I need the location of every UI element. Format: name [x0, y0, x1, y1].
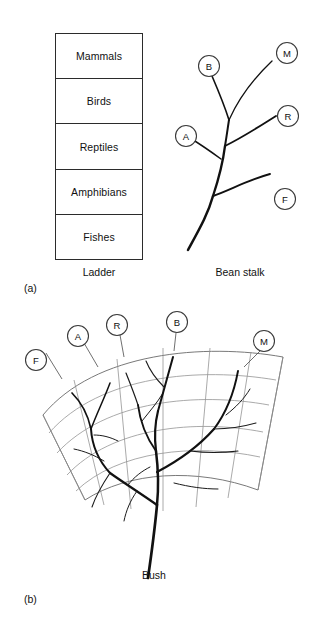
bush-branch-r-main — [138, 405, 156, 451]
ladder-caption: Ladder — [55, 266, 143, 278]
node-label: A — [75, 331, 82, 342]
bush-tip-r: R — [107, 315, 128, 336]
bush-twig-right-3 — [174, 483, 218, 489]
bush-twig-interior-3 — [94, 435, 118, 441]
bush-radial-1 — [43, 415, 85, 500]
node-label: M — [283, 48, 291, 59]
bush-branch-left-main — [110, 473, 157, 505]
node-label: F — [282, 194, 288, 205]
bush-trunk-mid — [156, 451, 158, 505]
ladder-rung-fishes: Fishes — [56, 215, 142, 259]
node-label: M — [260, 336, 268, 347]
bush-lead-r — [120, 335, 124, 357]
bean-stalk-caption: Bean stalk — [175, 266, 305, 278]
bush-twig-b-left — [146, 361, 164, 387]
bean-stalk-tip-b: B — [199, 56, 220, 77]
panel-a: Mammals Birds Reptiles Amphibians Fishes… — [0, 0, 313, 300]
bush-radial-7 — [258, 357, 283, 490]
panel-a-letter: (a) — [24, 282, 37, 294]
evolution-metaphors-figure: Mammals Birds Reptiles Amphibians Fishes… — [0, 0, 313, 624]
node-label: R — [285, 111, 292, 122]
bush-twig-left-down — [92, 473, 110, 507]
bush-tip-b: B — [167, 312, 188, 333]
bean-stalk-branch-b — [212, 76, 229, 120]
bush-twig-interior-2 — [128, 467, 150, 485]
bush-tip-a: A — [68, 326, 89, 347]
bush-branch-a-stem — [91, 383, 110, 429]
bean-stalk-tip-f: F — [275, 189, 296, 210]
bean-stalk-tip-a: A — [176, 126, 197, 147]
ladder-rung-label: Amphibians — [71, 186, 127, 198]
node-label: A — [183, 131, 190, 142]
bush-lead-a — [84, 343, 98, 367]
bush-tip-f: F — [26, 350, 47, 371]
node-label: B — [206, 61, 212, 72]
bean-stalk-trunk-lower — [188, 196, 213, 250]
bean-stalk-branch-r — [225, 116, 276, 146]
ladder-rung-label: Mammals — [76, 50, 122, 62]
ladder-rung-birds: Birds — [56, 79, 142, 124]
bean-stalk-branch-f — [213, 174, 270, 196]
bush-lead-f — [46, 353, 62, 379]
ladder-rung-label: Fishes — [83, 231, 115, 243]
bean-stalk-trunk-mid — [213, 146, 225, 196]
ladder-rung-reptiles: Reptiles — [56, 124, 142, 169]
bush-lead-m — [244, 351, 260, 367]
node-label: R — [114, 320, 121, 331]
ladder-rung-mammals: Mammals — [56, 34, 142, 79]
bush-tip-m: M — [254, 331, 275, 352]
bean-stalk-tip-m: M — [277, 43, 298, 64]
node-label: B — [174, 317, 180, 328]
bush-branch-r-stem — [126, 373, 138, 405]
node-label: F — [33, 355, 39, 366]
bean-stalk-diagram: M B R A F — [160, 28, 313, 278]
bush-diagram: F A R B M — [0, 295, 313, 585]
ladder-rung-amphibians: Amphibians — [56, 170, 142, 215]
bean-stalk-trunk-upper — [225, 120, 229, 146]
ladder-diagram: Mammals Birds Reptiles Amphibians Fishes — [55, 33, 143, 260]
bean-stalk-branch-m — [229, 61, 272, 120]
bush-radial-5 — [196, 348, 210, 507]
bush-lead-b — [174, 333, 176, 351]
ladder-rung-label: Reptiles — [80, 141, 119, 153]
ladder-rung-label: Birds — [87, 95, 111, 107]
bean-stalk-tip-r: R — [278, 106, 299, 127]
bush-stratum-arc-1 — [49, 375, 276, 433]
bush-branch-b-main — [158, 357, 173, 411]
panel-b: F A R B M Bush (b) — [0, 295, 313, 624]
panel-b-letter: (b) — [24, 593, 37, 605]
bush-caption: Bush — [104, 569, 204, 581]
bush-trunk-base — [148, 505, 157, 578]
